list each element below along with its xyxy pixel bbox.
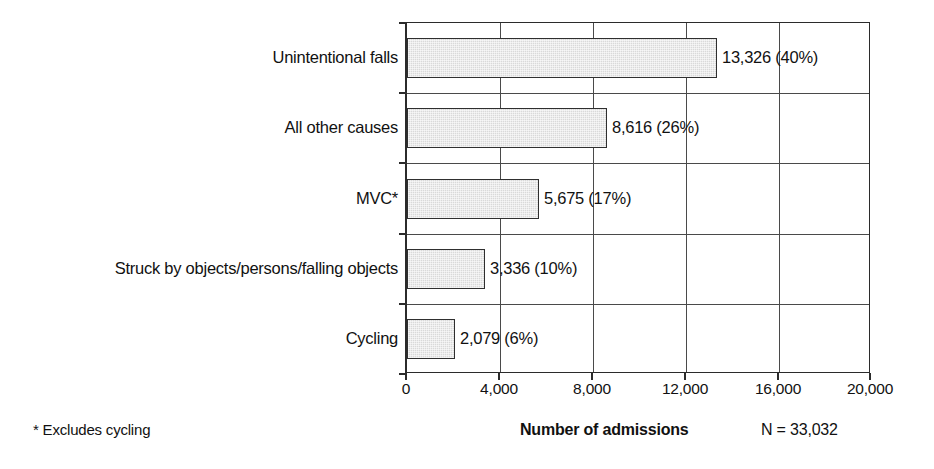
xtick-mark: [684, 373, 686, 380]
xtick-label-0: 0: [402, 380, 410, 398]
gridline-horizontal: [407, 304, 869, 305]
xtick-mark: [869, 373, 871, 380]
total-n-label: N = 33,032: [761, 421, 838, 439]
value-label-struck-by-objects: 3,336 (10%): [490, 259, 577, 278]
ytick-mark: [399, 233, 407, 235]
gridline-vertical: [779, 23, 780, 372]
category-label-all-other-causes: All other causes: [285, 118, 398, 137]
value-label-cycling: 2,079 (6%): [460, 329, 538, 348]
footnote: * Excludes cycling: [33, 421, 150, 438]
ytick-mark: [399, 22, 407, 24]
value-label-unintentional-falls: 13,326 (40%): [722, 48, 818, 67]
xtick-mark: [591, 373, 593, 380]
xtick-mark: [777, 373, 779, 380]
xtick-label-12000: 12,000: [662, 380, 708, 398]
bar-cycling: [407, 319, 455, 359]
gridline-horizontal: [407, 163, 869, 164]
bar-struck-by-objects: [407, 249, 485, 289]
bar-all-other-causes: [407, 108, 607, 148]
category-axis-labels: Unintentional falls All other causes MVC…: [0, 0, 398, 373]
category-label-struck-by-objects: Struck by objects/persons/falling object…: [115, 259, 398, 278]
bar-chart: 0 4,000 8,000 12,000 16,000 20,000 Unint…: [0, 0, 934, 469]
plot-area: [405, 22, 870, 373]
ytick-mark: [399, 162, 407, 164]
xtick-label-16000: 16,000: [755, 380, 801, 398]
gridline-horizontal: [407, 93, 869, 94]
ytick-mark: [399, 92, 407, 94]
xtick-mark: [498, 373, 500, 380]
category-label-mvc: MVC*: [356, 189, 398, 208]
xtick-label-8000: 8,000: [573, 380, 611, 398]
xtick-label-4000: 4,000: [480, 380, 518, 398]
xtick-label-20000: 20,000: [847, 380, 893, 398]
value-label-all-other-causes: 8,616 (26%): [612, 118, 699, 137]
category-label-cycling: Cycling: [346, 329, 398, 348]
value-label-mvc: 5,675 (17%): [544, 189, 631, 208]
bar-mvc: [407, 179, 539, 219]
x-axis-title: Number of admissions: [520, 421, 688, 439]
gridline-horizontal: [407, 234, 869, 235]
bar-unintentional-falls: [407, 38, 717, 78]
category-label-unintentional-falls: Unintentional falls: [273, 48, 399, 67]
xtick-mark: [405, 373, 407, 380]
ytick-mark: [399, 303, 407, 305]
